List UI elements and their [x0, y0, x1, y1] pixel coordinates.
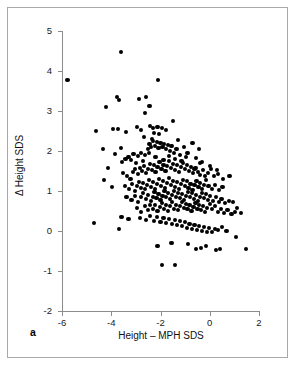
scatter-point — [155, 209, 159, 213]
scatter-point — [187, 222, 191, 226]
scatter-point — [191, 171, 195, 175]
scatter-point — [176, 138, 180, 142]
scatter-point — [152, 131, 156, 135]
scatter-point — [164, 128, 168, 132]
scatter-point — [198, 173, 202, 177]
scatter-point — [135, 206, 139, 210]
scatter-point — [134, 161, 138, 165]
scatter-point — [124, 195, 128, 199]
scatter-point — [133, 167, 137, 171]
scatter-point — [101, 147, 105, 151]
scatter-point — [182, 145, 186, 149]
scatter-point — [124, 130, 128, 134]
scatter-point — [157, 132, 161, 136]
scatter-point — [136, 200, 140, 204]
scatter-point — [184, 155, 188, 159]
scatter-point — [234, 235, 238, 239]
scatter-point — [126, 217, 130, 221]
scatter-point — [106, 166, 110, 170]
scatter-point — [161, 158, 165, 162]
scatter-plot-figure: -2-1012345 -6-4-202 Height – MPH SDS Δ H… — [0, 0, 296, 366]
scatter-point — [166, 209, 170, 213]
scatter-point — [147, 104, 151, 108]
scatter-point — [139, 128, 143, 132]
scatter-point — [194, 156, 198, 160]
scatter-point — [167, 217, 171, 221]
scatter-point — [190, 141, 194, 145]
scatter-point — [192, 167, 196, 171]
x-axis-label: Height – MPH SDS — [62, 330, 260, 341]
scatter-point — [119, 215, 123, 219]
scatter-point — [218, 247, 222, 251]
y-tick-label: 0 — [30, 226, 52, 236]
scatter-point — [173, 218, 177, 222]
scatter-point — [148, 214, 152, 218]
scatter-point — [197, 224, 201, 228]
scatter-point — [199, 246, 203, 250]
x-tick-mark — [111, 312, 112, 316]
scatter-point — [155, 125, 159, 129]
scatter-point — [172, 151, 176, 155]
scatter-point — [178, 153, 182, 157]
scatter-point — [161, 216, 165, 220]
scatter-point — [210, 187, 214, 191]
scatter-point — [136, 172, 140, 176]
scatter-point — [160, 263, 164, 267]
scatter-point — [175, 223, 179, 227]
scatter-point — [144, 218, 148, 222]
scatter-point — [144, 95, 148, 99]
scatter-point — [152, 219, 156, 223]
scatter-point — [111, 127, 115, 131]
scatter-point — [216, 228, 220, 232]
y-tick-label: 2 — [30, 146, 52, 156]
scatter-point — [116, 127, 120, 131]
scatter-point — [227, 174, 231, 178]
scatter-point — [204, 178, 208, 182]
scatter-point — [215, 168, 219, 172]
scatter-point — [128, 177, 132, 181]
scatter-point — [151, 207, 155, 211]
scatter-point — [239, 211, 243, 215]
scatter-point — [130, 182, 134, 186]
scatter-point — [119, 146, 123, 150]
y-axis-label: Δ Height SDS — [14, 96, 25, 236]
scatter-point — [202, 225, 206, 229]
scatter-point — [220, 185, 224, 189]
scatter-point — [146, 193, 150, 197]
scatter-point — [129, 198, 133, 202]
scatter-point — [186, 242, 190, 246]
x-tick-label: -6 — [51, 318, 73, 328]
scatter-point — [169, 241, 173, 245]
scatter-point — [216, 172, 220, 176]
scatter-point — [201, 168, 205, 172]
scatter-point — [178, 219, 182, 223]
scatter-point — [220, 225, 224, 229]
scatter-point — [185, 226, 189, 230]
scatter-point — [174, 147, 178, 151]
scatter-point — [208, 194, 212, 198]
scatter-point — [231, 200, 235, 204]
scatter-point — [65, 78, 69, 82]
scatter-point — [155, 215, 159, 219]
x-tick-mark — [62, 312, 63, 316]
scatter-point — [176, 208, 180, 212]
scatter-point — [153, 155, 157, 159]
scatter-point — [156, 78, 160, 82]
x-tick-label: -4 — [100, 318, 122, 328]
scatter-point — [208, 202, 212, 206]
scatter-point — [190, 227, 194, 231]
scatter-point — [94, 129, 98, 133]
scatter-point — [137, 97, 141, 101]
scatter-point — [139, 210, 143, 214]
scatter-point — [170, 222, 174, 226]
scatter-point — [144, 171, 148, 175]
y-tick-label: -2 — [30, 306, 52, 316]
scatter-point — [117, 98, 121, 102]
x-tick-label: 0 — [199, 318, 221, 328]
scatter-point — [155, 244, 159, 248]
y-tick-label: -1 — [30, 266, 52, 276]
y-tick-label: 5 — [30, 26, 52, 36]
scatter-point — [205, 206, 209, 210]
scatter-point — [173, 263, 177, 267]
scatter-point — [183, 220, 187, 224]
